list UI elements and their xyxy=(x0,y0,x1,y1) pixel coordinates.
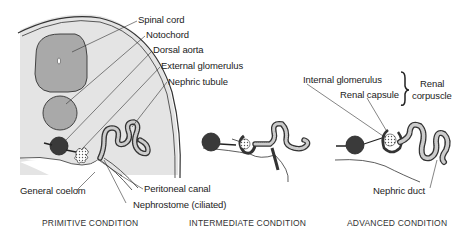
label-nephric-duct: Nephric duct xyxy=(373,185,425,196)
label-renal-corpuscle-2: corpuscle xyxy=(412,90,452,101)
label-notochord: Notochord xyxy=(146,29,189,40)
advanced-structure xyxy=(335,125,448,182)
dorsal-aorta xyxy=(50,137,68,155)
label-nephric-tubule: Nephric tubule xyxy=(168,76,228,87)
spinal-cord xyxy=(35,34,87,92)
label-renal-corpuscle-1: Renal xyxy=(420,78,444,89)
label-spinal-cord: Spinal cord xyxy=(138,14,184,25)
label-internal-glomerulus: Internal glomerulus xyxy=(303,74,382,85)
caption-intermediate: INTERMEDIATE CONDITION xyxy=(189,218,306,228)
renal-corpuscle-bracket xyxy=(401,72,409,105)
kidney-evolution-diagram xyxy=(0,0,463,236)
caption-advanced: ADVANCED CONDITION xyxy=(347,218,447,228)
label-external-glomerulus: External glomerulus xyxy=(161,60,243,71)
label-renal-capsule: Renal capsule xyxy=(340,89,399,100)
label-nephrostome: Nephrostome (ciliated) xyxy=(133,199,226,210)
label-peritoneal-canal: Peritoneal canal xyxy=(144,183,211,194)
caption-primitive: PRIMITIVE CONDITION xyxy=(42,218,138,228)
intermediate-structure xyxy=(202,124,308,182)
notochord xyxy=(43,96,77,130)
label-general-coelom: General coelom xyxy=(20,185,86,196)
label-dorsal-aorta: Dorsal aorta xyxy=(153,44,204,55)
